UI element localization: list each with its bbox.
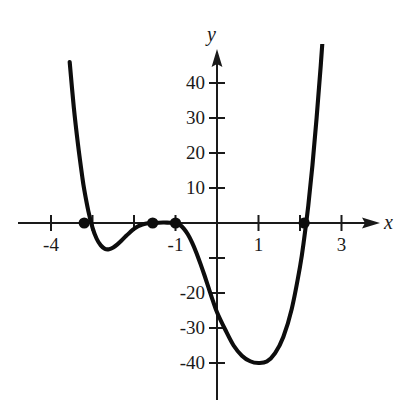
y-axis-label: y xyxy=(207,24,216,44)
y-tick-label--40: -40 xyxy=(155,353,205,372)
y-tick-label-10: 10 xyxy=(155,178,205,197)
y-tick-label--20: -20 xyxy=(155,283,205,302)
x-axis-label: x xyxy=(384,212,393,232)
marked-point-root-1 xyxy=(79,217,90,228)
x-tick-label-1: 1 xyxy=(243,235,275,254)
marked-point-root-4 xyxy=(299,217,310,228)
y-tick-label-40: 40 xyxy=(155,73,205,92)
x-tick-label--4: -4 xyxy=(35,235,67,254)
chart-figure: -4-11340302010-20-30-40 y x xyxy=(0,0,407,413)
y-tick-label--30: -30 xyxy=(155,318,205,337)
x-tick-label-3: 3 xyxy=(326,235,358,254)
y-tick-label-30: 30 xyxy=(155,108,205,127)
marked-point-root-2 xyxy=(147,217,158,228)
marked-point-root-3 xyxy=(170,217,181,228)
y-tick-label-20: 20 xyxy=(155,143,205,162)
x-tick-label--1: -1 xyxy=(160,235,192,254)
